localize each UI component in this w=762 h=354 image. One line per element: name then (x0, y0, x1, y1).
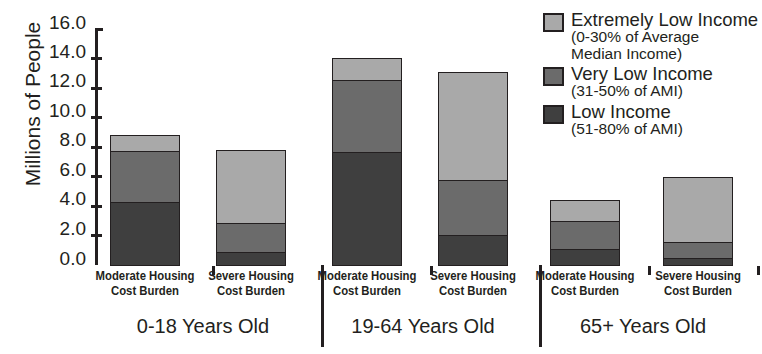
y-tick-label: 14.0 (49, 42, 86, 61)
x-tick-label-line2: Cost Burden (317, 283, 418, 298)
y-tick-label: 6.0 (60, 160, 86, 179)
bar-segment-very-low-income (110, 151, 180, 204)
y-tick-label: 16.0 (49, 13, 86, 32)
bar-0-18-severe[interactable] (216, 150, 286, 264)
x-tick-label-line1: Moderate Housing (95, 268, 196, 283)
x-tick-label-line1: Severe Housing (648, 268, 749, 283)
x-tick-label-line2: Cost Burden (95, 283, 196, 298)
legend-label: Extremely Low Income (571, 10, 762, 29)
bar-segment-extremely-low-income (216, 150, 286, 225)
x-tick-label-line2: Cost Burden (423, 283, 524, 298)
bar-19-64-severe[interactable] (438, 72, 508, 264)
y-axis-tick-labels: 16.0 14.0 12.0 10.0 8.0 6.0 4.0 2.0 0.0 (32, 22, 92, 272)
x-tick-label-0-18-severe: Severe Housing Cost Burden (201, 268, 302, 298)
y-tick-label: 0.0 (60, 249, 86, 268)
x-axis-tick-mark (757, 266, 760, 275)
bar-segment-extremely-low-income (663, 177, 733, 243)
bar-segment-extremely-low-income (332, 58, 402, 82)
legend-sublabel-line1: (0-30% of Average (571, 29, 762, 46)
legend-swatch-icon (543, 67, 564, 86)
x-tick-label-line1: Severe Housing (201, 268, 302, 283)
legend-sublabel-line1: (31-50% of AMI) (571, 83, 762, 100)
bar-0-18-moderate[interactable] (110, 135, 180, 264)
bar-segment-low-income (110, 202, 180, 265)
group-label-65plus: 65+ Years Old (533, 315, 753, 338)
bar-segment-very-low-income (438, 180, 508, 236)
group-label-0-18: 0-18 Years Old (93, 315, 313, 338)
x-tick-label-line1: Severe Housing (423, 268, 524, 283)
y-tick-label: 8.0 (60, 130, 86, 149)
x-tick-label-0-18-moderate: Moderate Housing Cost Burden (95, 268, 196, 298)
bar-segment-very-low-income (216, 223, 286, 254)
y-tick-label: 10.0 (49, 101, 86, 120)
y-tick-label: 2.0 (60, 219, 86, 238)
x-tick-label-19-64-severe: Severe Housing Cost Burden (423, 268, 524, 298)
legend-sublabel-line2: Median Income) (571, 46, 762, 63)
bar-19-64-moderate[interactable] (332, 58, 402, 264)
group-label-19-64: 19-64 Years Old (313, 315, 533, 338)
bar-segment-low-income (216, 252, 286, 265)
bar-segment-extremely-low-income (550, 200, 620, 223)
y-tick-label: 12.0 (49, 71, 86, 90)
legend-label: Very Low Income (571, 64, 762, 83)
x-tick-label-line2: Cost Burden (201, 283, 302, 298)
x-tick-label-line2: Cost Burden (535, 283, 636, 298)
legend-swatch-icon (543, 13, 564, 32)
legend-item-low-income[interactable]: Low Income (51-80% of AMI) (543, 102, 762, 138)
x-tick-label-line1: Moderate Housing (317, 268, 418, 283)
x-tick-label-line1: Moderate Housing (535, 268, 636, 283)
bar-segment-low-income (438, 235, 508, 266)
bar-segment-extremely-low-income (438, 72, 508, 182)
bar-segment-low-income (550, 249, 620, 265)
x-axis-group-labels: 0-18 Years Old 19-64 Years Old 65+ Years… (98, 315, 753, 347)
bar-65plus-moderate[interactable] (550, 200, 620, 264)
y-tick-label: 4.0 (60, 189, 86, 208)
x-tick-label-65plus-severe: Severe Housing Cost Burden (648, 268, 749, 298)
bar-segment-extremely-low-income (110, 135, 180, 153)
bar-segment-very-low-income (332, 80, 402, 153)
x-axis-tick-labels: Moderate Housing Cost Burden Severe Hous… (98, 268, 753, 312)
x-tick-label-line2: Cost Burden (648, 283, 749, 298)
bar-segment-low-income (332, 152, 402, 265)
legend-item-extremely-low-income[interactable]: Extremely Low Income (0-30% of Average M… (543, 10, 762, 62)
x-tick-label-65plus-moderate: Moderate Housing Cost Burden (535, 268, 636, 298)
legend-label: Low Income (571, 102, 762, 121)
x-tick-label-19-64-moderate: Moderate Housing Cost Burden (317, 268, 418, 298)
bar-segment-low-income (663, 258, 733, 265)
legend-swatch-icon (543, 105, 564, 124)
bar-segment-very-low-income (550, 221, 620, 250)
bar-65plus-severe[interactable] (663, 177, 733, 264)
bar-segment-very-low-income (663, 242, 733, 260)
chart-legend: Extremely Low Income (0-30% of Average M… (543, 10, 762, 139)
legend-item-very-low-income[interactable]: Very Low Income (31-50% of AMI) (543, 64, 762, 100)
legend-sublabel-line1: (51-80% of AMI) (571, 121, 762, 138)
stacked-bar-chart: Millions of People 16.0 14.0 12.0 10.0 8… (0, 0, 762, 354)
